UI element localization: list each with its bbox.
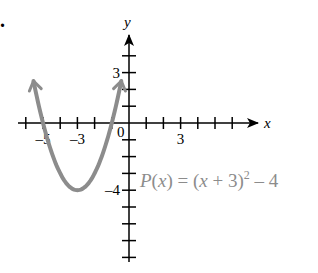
x-axis-label: x bbox=[263, 115, 271, 131]
y-tick-label: –4 bbox=[104, 182, 121, 198]
x-tick-label: –3 bbox=[69, 131, 85, 147]
function-label: P(x) = (x + 3)2 – 4 bbox=[139, 168, 279, 192]
problem-marker: . bbox=[0, 9, 5, 31]
parabola-graph: . –5–333–4 x y 0 P(x) = (x + 3)2 – 4 bbox=[0, 0, 318, 273]
origin-label: 0 bbox=[117, 124, 125, 140]
x-tick-label: 3 bbox=[177, 131, 185, 147]
y-axis-label: y bbox=[122, 14, 131, 30]
y-tick-label: 3 bbox=[113, 65, 121, 81]
